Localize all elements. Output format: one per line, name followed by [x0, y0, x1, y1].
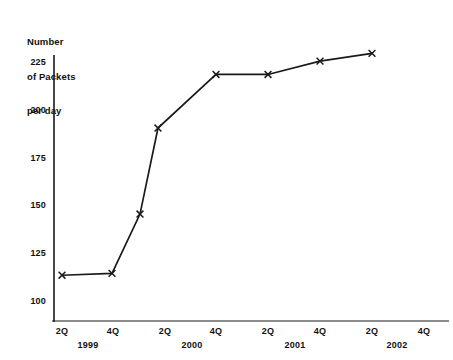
x-tick-label: 4Q [96, 326, 130, 336]
data-series-line [62, 53, 372, 275]
x-tick-label: 2Q [45, 326, 79, 336]
line-chart: Number of Packets per day 225 200 175 15… [0, 0, 453, 360]
x-tick-label: 2Q [251, 326, 285, 336]
x-axis-year-label: 2001 [275, 340, 315, 350]
x-tick-label: 4Q [407, 326, 441, 336]
x-tick-label: 2Q [148, 326, 182, 336]
x-axis-year-label: 1999 [68, 340, 108, 350]
data-point-markers [59, 50, 376, 279]
x-tick-label: 4Q [199, 326, 233, 336]
plot-area [0, 0, 453, 360]
x-axis-year-label: 2000 [172, 340, 212, 350]
x-axis-year-label: 2002 [377, 340, 417, 350]
x-tick-label: 4Q [303, 326, 337, 336]
x-tick-label: 2Q [355, 326, 389, 336]
